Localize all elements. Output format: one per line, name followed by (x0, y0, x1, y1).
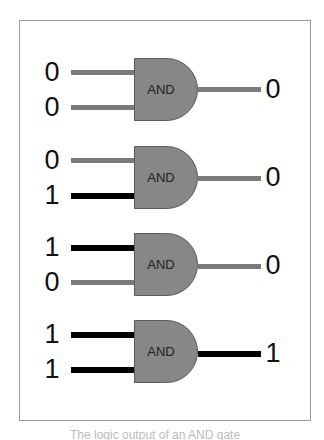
and-gate-symbol: AND (134, 233, 198, 296)
input-a-label: 0 (41, 147, 63, 174)
input-a-label: 1 (41, 321, 63, 348)
gate-label: AND (135, 59, 187, 122)
and-gate-row-4: 1 1 AND 1 (0, 320, 324, 390)
output-wire (198, 351, 261, 357)
and-gate-row-2: 0 1 AND 0 (0, 146, 324, 216)
gate-label: AND (135, 321, 187, 384)
input-b-label: 1 (41, 356, 63, 383)
output-wire (198, 264, 261, 269)
and-gate-row-3: 1 0 AND 0 (0, 233, 324, 303)
gate-label: AND (135, 147, 187, 210)
input-b-wire (71, 105, 134, 110)
input-b-wire (71, 193, 134, 199)
input-b-label: 1 (41, 182, 63, 209)
and-gate-symbol: AND (134, 146, 198, 209)
and-gate-row-1: 0 0 AND 0 (0, 58, 324, 128)
gate-label: AND (135, 234, 187, 297)
output-label: 1 (262, 340, 284, 367)
and-gate-symbol: AND (134, 320, 198, 383)
input-a-wire (71, 70, 134, 75)
input-b-label: 0 (41, 94, 63, 121)
and-gate-symbol: AND (134, 58, 198, 121)
input-a-label: 0 (41, 59, 63, 86)
output-label: 0 (262, 164, 284, 191)
input-b-wire (71, 280, 134, 285)
input-a-wire (71, 158, 134, 163)
output-label: 0 (262, 76, 284, 103)
input-a-label: 1 (41, 234, 63, 261)
input-a-wire (71, 332, 134, 338)
output-label: 0 (262, 252, 284, 279)
figure-caption: The logic output of an AND gate (70, 428, 260, 440)
input-b-wire (71, 367, 134, 373)
input-b-label: 0 (41, 269, 63, 296)
output-wire (198, 176, 261, 181)
input-a-wire (71, 245, 134, 251)
output-wire (198, 87, 261, 92)
